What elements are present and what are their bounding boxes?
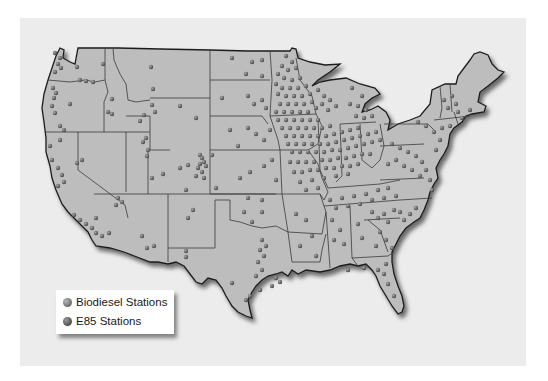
legend-label: E85 Stations — [76, 315, 141, 327]
legend-item-biodiesel: Biodiesel Stations — [63, 295, 167, 309]
legend-item-e85: E85 Stations — [63, 314, 141, 328]
dark-sphere-icon — [63, 317, 72, 326]
gray-sphere-icon — [63, 298, 72, 307]
map-legend: Biodiesel Stations E85 Stations — [56, 290, 174, 334]
legend-label: Biodiesel Stations — [76, 296, 167, 308]
us-land-outline — [42, 48, 504, 318]
